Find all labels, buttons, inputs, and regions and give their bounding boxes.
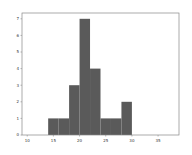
y-tick-label: 0 <box>16 132 19 137</box>
histogram-bar <box>121 102 131 135</box>
y-axis-ticks: 01234567 <box>16 16 22 137</box>
y-tick-label: 5 <box>16 49 19 54</box>
x-tick-label: 15 <box>51 138 57 143</box>
y-tick-label: 1 <box>16 116 19 121</box>
x-tick-label: 30 <box>129 138 135 143</box>
x-tick-label: 20 <box>77 138 83 143</box>
x-axis-ticks: 101520253035 <box>25 135 161 143</box>
histogram-bar <box>111 118 121 135</box>
y-tick-label: 4 <box>16 66 19 71</box>
histogram-bar <box>80 19 90 135</box>
x-tick-label: 25 <box>103 138 109 143</box>
x-tick-label: 35 <box>156 138 162 143</box>
y-tick-label: 2 <box>16 99 19 104</box>
histogram-chart: 101520253035 01234567 <box>0 0 192 155</box>
histogram-bar <box>101 118 111 135</box>
y-tick-label: 3 <box>16 83 19 88</box>
histogram-bar <box>59 118 69 135</box>
histogram-bars <box>48 19 132 135</box>
histogram-bar <box>48 118 58 135</box>
y-tick-label: 7 <box>16 16 19 21</box>
y-tick-label: 6 <box>16 33 19 38</box>
x-tick-label: 10 <box>25 138 31 143</box>
histogram-bar <box>90 69 100 135</box>
histogram-bar <box>69 85 79 135</box>
